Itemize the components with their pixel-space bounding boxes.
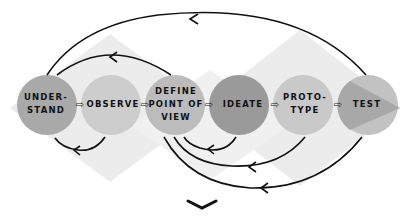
connector-arrow-5: ⇨ [334, 99, 342, 110]
label-line: TEST [353, 98, 381, 111]
stage-label-ideate: IDEATE [223, 98, 264, 111]
label-line: POINT OF [148, 98, 203, 111]
chevron-down-icon[interactable] [188, 201, 216, 208]
label-line: OBSERVE [87, 98, 140, 111]
connector-arrow-4: ⇨ [271, 99, 279, 110]
label-line: TYPE [291, 104, 320, 117]
label-line: STAND [27, 104, 65, 117]
label-line: UNDER- [24, 91, 68, 104]
arrow-head-top [190, 14, 198, 24]
stage-label-understand: UNDER- STAND [24, 91, 68, 117]
label-line: IDEATE [223, 98, 264, 111]
connector-arrow-1: ⇨ [76, 99, 84, 110]
stage-label-test: TEST [353, 98, 381, 111]
stage-label-prototype: PROTO- TYPE [283, 91, 327, 117]
stage-label-observe: OBSERVE [87, 98, 140, 111]
label-line: VIEW [161, 111, 191, 124]
connector-arrow-3: ⇨ [205, 99, 213, 110]
arrow-head-prototype [249, 162, 256, 172]
label-line: PROTO- [283, 91, 327, 104]
label-line: DEFINE [155, 85, 197, 98]
stage-label-define: DEFINE POINT OF VIEW [148, 85, 203, 124]
